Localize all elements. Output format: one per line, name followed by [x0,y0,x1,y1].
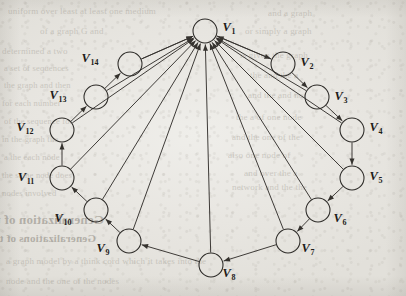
edge-V12-to-V13 [71,106,87,121]
edge-V14-to-V1 [141,36,192,59]
node-label-v8: V8 [223,266,236,282]
scanned-page: uniform over least at least one mediumof… [0,0,406,296]
node-label-v6: V6 [334,211,347,227]
graph-node-v6 [306,198,330,222]
graph-node-v12 [50,118,74,142]
graph-node-v5 [340,166,364,190]
graph-node-v11 [50,166,74,190]
node-label-v14: V14 [82,51,99,67]
node-label-v2: V2 [301,55,314,71]
node-label-v1: V1 [223,20,236,36]
edge-V3-to-V4 [326,106,342,121]
node-label-layer: V1V2V3V4V5V6V7V8V9V10V11V12V13V14 [17,20,383,282]
node-label-v11: V11 [18,170,34,186]
edge-V6-to-V7 [297,219,309,232]
edge-V8-to-V9 [142,244,199,261]
graph-node-v14 [118,52,142,76]
node-label-v3: V3 [335,89,348,105]
edge-V8-to-V1 [203,44,211,252]
node-label-v7: V7 [302,241,315,257]
edge-V9-to-V1 [133,44,200,230]
node-label-v9: V9 [97,241,110,257]
edge-V2-to-V1 [217,36,271,59]
graph-node-v7 [276,229,300,253]
node-label-v10: V10 [55,211,72,227]
node-label-v12: V12 [17,120,34,136]
graph-node-v8 [199,253,223,277]
edge-V3-to-V1 [217,38,307,91]
edge-V5-to-V6 [328,187,343,201]
edge-V4-to-V1 [216,38,342,123]
edge-V13-to-V14 [105,73,121,88]
graph-node-v4 [340,118,364,142]
edge-V7-to-V1 [210,43,283,229]
edge-V6-to-V1 [212,42,311,199]
edge-V10-to-V1 [103,42,199,199]
directed-graph-figure: V1V2V3V4V5V6V7V8V9V10V11V12V13V14 [0,0,406,296]
graph-node-v1 [193,19,217,43]
graph-node-v2 [271,52,295,76]
edge-V12-to-V1 [72,39,194,123]
edge-V4-to-V5 [350,143,355,165]
edge-V9-to-V10 [106,219,120,232]
node-label-v5: V5 [370,169,383,185]
graph-node-v13 [84,85,108,109]
graph-node-v10 [84,198,108,222]
graph-node-v3 [305,85,329,109]
edge-V7-to-V8 [224,245,276,262]
edge-V2-to-V3 [292,73,308,88]
graph-node-v9 [117,229,141,253]
edge-V13-to-V1 [107,38,194,91]
edge-V10-to-V11 [72,187,87,201]
edge-V11-to-V12 [60,143,65,165]
node-label-v13: V13 [50,88,67,104]
node-label-v4: V4 [370,120,383,136]
